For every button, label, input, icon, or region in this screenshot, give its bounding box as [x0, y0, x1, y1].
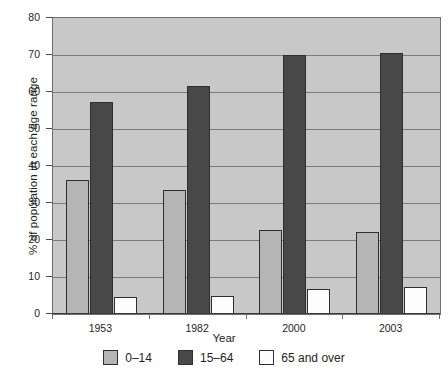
legend: 0–1415–6465 and over: [0, 350, 448, 365]
y-axis-tick-label: 70: [0, 48, 40, 60]
x-axis-tick: [439, 314, 440, 319]
bar-2000-65-and-over: [307, 289, 330, 314]
bar-1953-65-and-over: [114, 297, 137, 314]
x-axis-title: Year: [0, 332, 448, 344]
x-axis-tick: [342, 314, 343, 319]
bar-2003-15–64: [380, 53, 403, 314]
bar-1953-0–14: [66, 180, 89, 314]
bar-2003-65-and-over: [404, 287, 427, 314]
x-axis-tick: [52, 314, 53, 319]
bar-2000-0–14: [259, 230, 282, 314]
y-axis-tick-label: 60: [0, 85, 40, 97]
y-axis-tick-label: 20: [0, 233, 40, 245]
x-axis-tick: [149, 314, 150, 319]
y-axis-tick-label: 80: [0, 11, 40, 23]
bar-1982-65-and-over: [211, 296, 234, 314]
y-axis-tick-label: 10: [0, 270, 40, 282]
legend-label: 65 and over: [281, 351, 344, 365]
bar-1982-15–64: [187, 86, 210, 314]
bar-1982-0–14: [163, 190, 186, 314]
bar-1953-15–64: [90, 102, 113, 314]
legend-label: 0–14: [125, 351, 152, 365]
y-axis-tick-label: 30: [0, 196, 40, 208]
legend-swatch-icon: [103, 350, 118, 365]
legend-swatch-icon: [259, 350, 274, 365]
y-axis-tick-label: 40: [0, 159, 40, 171]
legend-item: 15–64: [178, 350, 233, 365]
bar-chart: % of population in each age range 010203…: [0, 0, 448, 383]
plot-area: [52, 17, 441, 315]
legend-label: 15–64: [200, 351, 233, 365]
bar-2000-15–64: [283, 55, 306, 314]
legend-item: 65 and over: [259, 350, 344, 365]
bars-group: [53, 18, 440, 314]
legend-swatch-icon: [178, 350, 193, 365]
bar-2003-0–14: [356, 232, 379, 314]
legend-item: 0–14: [103, 350, 152, 365]
x-axis-tick: [246, 314, 247, 319]
y-axis-tick-label: 50: [0, 122, 40, 134]
y-axis-tick-label: 0: [0, 307, 40, 319]
